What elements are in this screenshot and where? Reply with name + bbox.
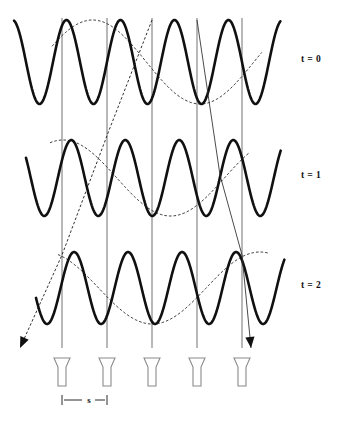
row-label-t0: t = 0 [301, 54, 321, 64]
waveform-row-2 [36, 252, 284, 324]
envelope-wave-0 [52, 20, 262, 104]
transducer-1 [99, 358, 115, 386]
transducer-array-group [54, 358, 250, 386]
carrier-wave-0 [14, 20, 280, 104]
transducer-2 [144, 358, 160, 386]
transducer-4 [234, 358, 250, 386]
diagram-canvas: t = 0 t = 1 t = 2 s [0, 0, 347, 423]
scale-marker [62, 395, 107, 405]
row-label-t1: t = 1 [301, 170, 321, 180]
waveform-row-0 [14, 20, 280, 104]
row-label-t2: t = 2 [301, 280, 321, 290]
carrier-wave-2 [36, 252, 284, 324]
transducer-3 [189, 358, 205, 386]
wave-propagation-figure: t = 0 t = 1 t = 2 s [0, 0, 347, 423]
transducer-0 [54, 358, 70, 386]
solid-ray-right-arrowhead [245, 337, 254, 348]
scale-label-s: s [87, 395, 91, 405]
